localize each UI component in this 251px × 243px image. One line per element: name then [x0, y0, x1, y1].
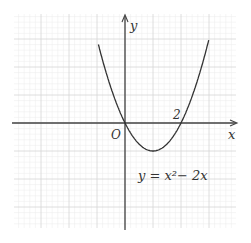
tick-label-2: 2 [172, 108, 181, 122]
x-axis-label: x [228, 127, 236, 142]
origin-label: O [111, 128, 121, 142]
y-axis-label: y [129, 18, 138, 33]
equation-label: y = x²− 2x [137, 168, 208, 183]
graph-canvas: y x O 2 y = x²− 2x [0, 0, 251, 243]
